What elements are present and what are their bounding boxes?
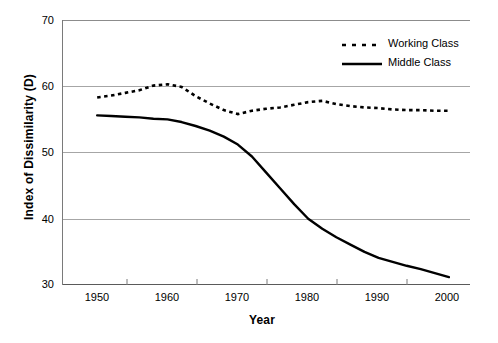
x-tick-2000: 2000 (425, 291, 469, 303)
legend-label-working-class: Working Class (384, 37, 459, 49)
legend-label-middle-class: Middle Class (384, 56, 451, 68)
x-tick-1960: 1960 (145, 291, 189, 303)
legend-item-middle-class: Middle Class (340, 52, 480, 71)
legend: Working Class Middle Class (340, 33, 480, 71)
x-tick-1980: 1980 (285, 291, 329, 303)
x-tick-1950: 1950 (75, 291, 119, 303)
x-tick-1970: 1970 (215, 291, 259, 303)
legend-swatch-dotted-icon (340, 37, 384, 49)
x-axis-title: Year (62, 313, 462, 327)
legend-item-working-class: Working Class (340, 33, 480, 52)
legend-swatch-solid-icon (340, 56, 384, 68)
x-tick-1990: 1990 (355, 291, 399, 303)
line-chart: Index of Dissimilarity (D) (0, 0, 498, 343)
